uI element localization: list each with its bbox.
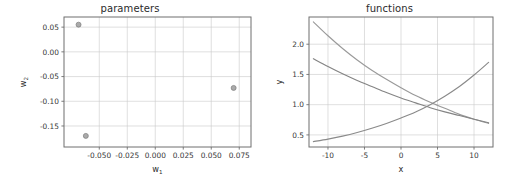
y-axis-label-group: y	[274, 79, 284, 84]
ytick-label: 0.5	[292, 131, 304, 140]
xtick-label: 0.025	[173, 151, 194, 160]
scatter-plot-axes: -0.050-0.0250.0000.0250.0500.0750.050.00…	[0, 0, 260, 186]
matplotlib-figure: parameters -0.050-0.0250.0000.0250.0500.…	[0, 0, 519, 186]
xtick-label: -0.025	[115, 151, 139, 160]
axes-frame	[64, 17, 251, 147]
ytick-label: -0.10	[40, 97, 59, 106]
xtick-label: 0.050	[201, 151, 222, 160]
x-axis-label-subscript: 1	[159, 169, 163, 175]
x-axis-label: w1	[152, 164, 163, 175]
x-axis-label: x	[399, 164, 404, 174]
xtick-label: 0.000	[145, 151, 166, 160]
y-axis-label-subscript: 2	[23, 77, 29, 81]
ytick-label: 0.00	[43, 48, 60, 57]
y-axis-label: y	[274, 79, 284, 84]
xtick-label: -10	[322, 151, 334, 160]
panel-functions: functions -10-505100.51.01.52.0xy	[260, 0, 519, 186]
xtick-label: -0.050	[87, 151, 111, 160]
xtick-label: 10	[469, 151, 479, 160]
ytick-label: -0.05	[40, 72, 59, 81]
ytick-label: 0.05	[43, 23, 60, 32]
scatter-point	[231, 85, 236, 90]
xtick-label: 0.075	[229, 151, 250, 160]
xtick-label: 5	[435, 151, 440, 160]
y-axis-label-group: w2	[18, 77, 29, 87]
scatter-point	[83, 133, 88, 138]
y-axis-label: w2	[18, 77, 29, 87]
line-plot-axes: -10-505100.51.01.52.0xy	[260, 0, 519, 186]
xtick-label: -5	[361, 151, 369, 160]
scatter-point	[76, 22, 81, 27]
xtick-label: 0	[399, 151, 404, 160]
panel-parameters: parameters -0.050-0.0250.0000.0250.0500.…	[0, 0, 260, 186]
ytick-label: 1.0	[292, 100, 304, 109]
ytick-label: 2.0	[292, 40, 304, 49]
ytick-label: 1.5	[292, 70, 304, 79]
ytick-label: -0.15	[40, 122, 59, 131]
